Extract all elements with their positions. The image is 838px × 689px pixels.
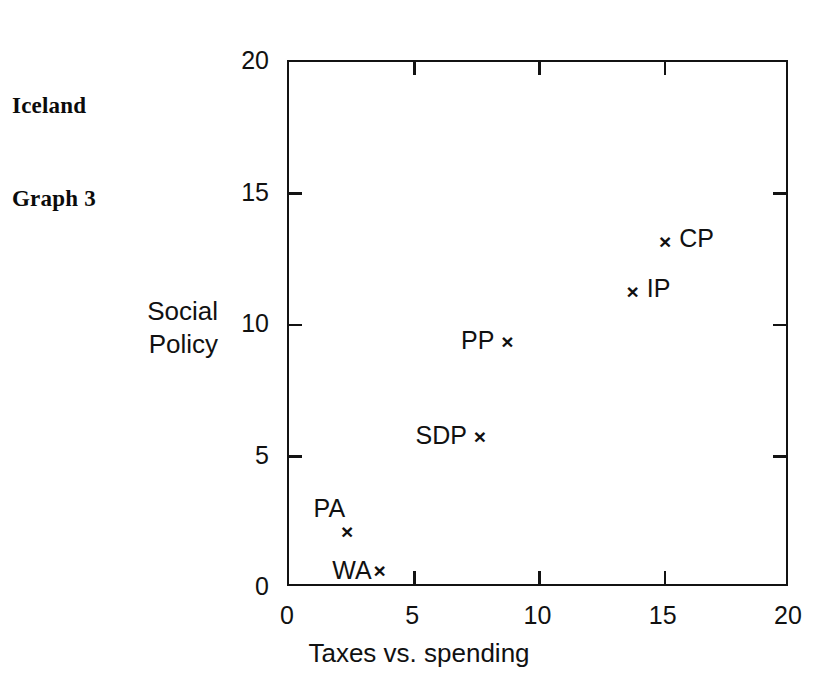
scatter-point-label: PA	[314, 496, 346, 521]
y-axis-tick-label: 5	[207, 442, 269, 467]
x-axis-tick-top	[413, 62, 416, 75]
x-axis-tick	[413, 571, 416, 584]
x-axis-tick-label: 10	[524, 603, 552, 628]
scatter-point-label: SDP	[415, 423, 466, 448]
scatter-marker-x-icon: ×	[501, 331, 513, 352]
x-axis-tick-label: 15	[649, 603, 677, 628]
x-axis-tick-top	[664, 62, 667, 75]
scatter-marker-x-icon: ×	[341, 520, 353, 541]
chart-caption: Iceland Graph 3	[12, 28, 96, 276]
y-axis-tick-label: 10	[207, 311, 269, 336]
chart-page: Iceland Graph 3 Social Policy Taxes vs. …	[0, 0, 838, 689]
x-axis-tick-label: 5	[405, 603, 419, 628]
scatter-point-label: PP	[461, 328, 494, 353]
scatter-marker-x-icon: ×	[474, 426, 486, 447]
x-axis-tick	[664, 571, 667, 584]
scatter-marker-x-icon: ×	[659, 231, 671, 252]
y-axis-tick	[289, 324, 302, 327]
y-axis-tick-label: 20	[207, 48, 269, 73]
caption-line-graph-number: Graph 3	[12, 183, 96, 214]
y-axis-tick-right	[773, 455, 786, 458]
scatter-point-label: IP	[647, 276, 671, 301]
x-axis-tick-label: 20	[774, 603, 802, 628]
x-axis-title: Taxes vs. spending	[0, 638, 838, 669]
y-axis-tick-right	[773, 192, 786, 195]
scatter-marker-x-icon: ×	[627, 281, 639, 302]
x-axis-tick-label: 0	[280, 603, 294, 628]
scatter-point-label: WA	[332, 558, 371, 583]
y-axis-title-line1: Social	[78, 295, 218, 328]
y-axis-title: Social Policy	[78, 295, 218, 361]
scatter-point-label: CP	[679, 226, 714, 251]
y-axis-title-line2: Policy	[78, 328, 218, 361]
y-axis-tick	[289, 455, 302, 458]
y-axis-tick-label: 0	[207, 574, 269, 599]
y-axis-tick-right	[773, 324, 786, 327]
y-axis-tick-label: 15	[207, 179, 269, 204]
plot-area-frame	[287, 60, 788, 586]
y-axis-tick	[289, 192, 302, 195]
x-axis-tick	[538, 571, 541, 584]
scatter-marker-x-icon: ×	[374, 560, 386, 581]
caption-line-country: Iceland	[12, 90, 96, 121]
x-axis-tick-top	[538, 62, 541, 75]
